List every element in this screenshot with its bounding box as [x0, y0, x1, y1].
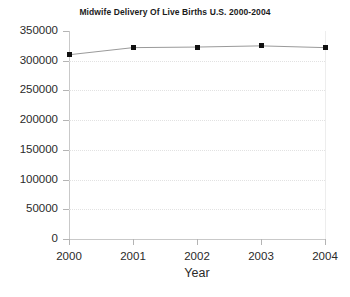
chart-container: Midwife Delivery Of Live Births U.S. 200…: [0, 0, 350, 297]
x-axis-tick-label: 2000: [47, 250, 91, 262]
x-axis-tick-label: 2004: [303, 250, 347, 262]
x-axis-tick: [197, 239, 198, 245]
y-axis-tick-label: 350000: [20, 25, 58, 37]
data-point-marker: [323, 45, 328, 50]
series-line: [69, 31, 325, 239]
data-point-marker: [67, 52, 72, 57]
x-axis-tick-label: 2002: [175, 250, 219, 262]
y-axis-tick-label: 200000: [20, 114, 58, 126]
x-axis-label: Year: [69, 266, 325, 280]
data-point-marker: [259, 43, 264, 48]
y-axis-tick-label: 250000: [20, 84, 58, 96]
x-axis-tick: [261, 239, 262, 245]
y-axis-tick-label: 150000: [20, 144, 58, 156]
y-axis-tick-label: 0: [52, 233, 58, 245]
y-axis-tick-label: 300000: [20, 55, 58, 67]
x-axis-tick: [133, 239, 134, 245]
x-axis-tick: [69, 239, 70, 245]
y-axis-tick-label: 50000: [26, 203, 58, 215]
x-axis-tick: [325, 239, 326, 245]
data-point-marker: [131, 45, 136, 50]
plot-area: [69, 31, 325, 239]
chart-title: Midwife Delivery Of Live Births U.S. 200…: [0, 7, 350, 17]
data-point-marker: [195, 45, 200, 50]
x-axis-tick-label: 2003: [239, 250, 283, 262]
y-axis-tick-label: 100000: [20, 174, 58, 186]
x-axis-tick-label: 2001: [111, 250, 155, 262]
right-axis-line: [325, 31, 326, 239]
